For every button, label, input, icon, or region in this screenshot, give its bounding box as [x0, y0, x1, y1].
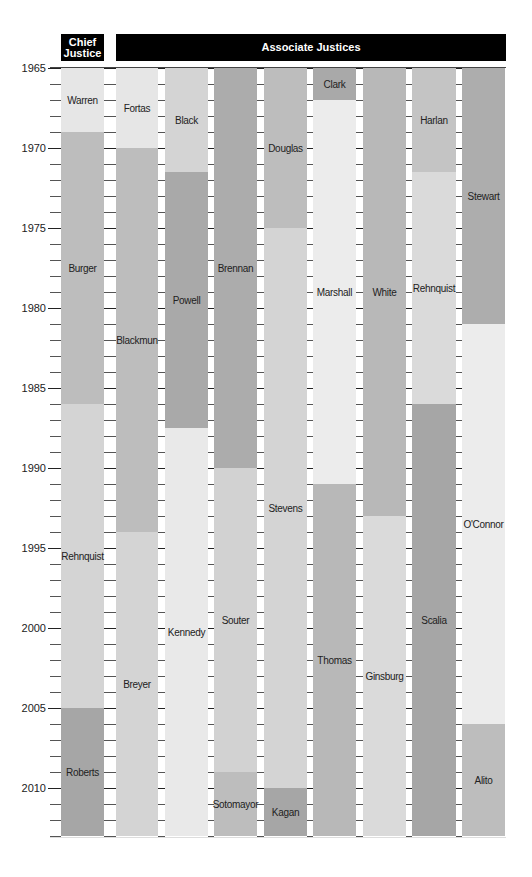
- year-tick: [208, 148, 214, 149]
- justice-name-label: White: [372, 287, 396, 298]
- year-tick: [257, 548, 264, 549]
- year-tick: [356, 436, 363, 437]
- year-tick: [158, 516, 165, 517]
- year-tick: [257, 388, 264, 389]
- justice-name-label: Alito: [475, 775, 493, 786]
- year-tick: [158, 148, 165, 149]
- year-tick: [456, 756, 462, 757]
- year-tick: [257, 420, 264, 421]
- year-tick: [257, 436, 264, 437]
- year-tick: [257, 484, 264, 485]
- justice-tenure-bar: Clark: [313, 68, 356, 100]
- year-tick: [356, 308, 363, 309]
- year-tick: [208, 356, 214, 357]
- year-tick: [257, 580, 264, 581]
- year-tick: [48, 708, 61, 709]
- year-tick: [257, 372, 264, 373]
- associate-seat-column: HarlanRehnquistScalia: [412, 68, 456, 837]
- year-tick: [208, 804, 214, 805]
- justice-tenure-bar: Marshall: [313, 100, 356, 484]
- justice-name-label: Kennedy: [168, 627, 205, 638]
- year-tick: [208, 212, 214, 213]
- year-tick: [257, 708, 264, 709]
- year-tick: [208, 404, 214, 405]
- year-tick: [257, 692, 264, 693]
- year-tick: [208, 468, 214, 469]
- year-tick: [307, 84, 313, 85]
- year-tick: [104, 324, 116, 325]
- year-tick: [307, 756, 313, 757]
- year-tick: [208, 420, 214, 421]
- year-tick: [208, 628, 214, 629]
- year-tick: [406, 692, 412, 693]
- year-tick: [307, 116, 313, 117]
- justice-name-label: Warren: [67, 95, 98, 106]
- year-tick: [456, 148, 462, 149]
- year-tick: [456, 484, 462, 485]
- year-tick: [158, 692, 165, 693]
- year-tick: [104, 820, 116, 821]
- associate-justices-header-label: Associate Justices: [261, 42, 360, 53]
- year-tick: [406, 100, 412, 101]
- year-tick: [208, 436, 214, 437]
- year-tick: [307, 628, 313, 629]
- year-tick: [158, 68, 165, 69]
- year-tick: [50, 484, 61, 485]
- y-axis-label: 1970: [0, 142, 46, 154]
- year-tick: [104, 196, 116, 197]
- year-tick: [356, 708, 363, 709]
- year-tick: [356, 404, 363, 405]
- year-tick: [307, 724, 313, 725]
- year-tick: [104, 532, 116, 533]
- year-tick: [406, 628, 412, 629]
- year-tick: [456, 452, 462, 453]
- year-tick: [307, 708, 313, 709]
- year-tick: [158, 612, 165, 613]
- year-tick: [456, 420, 462, 421]
- justice-name-label: Clark: [324, 79, 346, 90]
- year-tick: [456, 260, 462, 261]
- year-tick: [406, 404, 412, 405]
- justice-name-label: Ginsburg: [365, 671, 403, 682]
- year-tick: [406, 452, 412, 453]
- year-tick: [50, 820, 61, 821]
- justice-name-label: Rehnquist: [61, 551, 103, 562]
- year-tick: [456, 548, 462, 549]
- year-tick: [406, 244, 412, 245]
- year-tick: [456, 212, 462, 213]
- year-tick: [50, 772, 61, 773]
- y-axis-label: 1990: [0, 462, 46, 474]
- year-tick: [356, 772, 363, 773]
- year-tick: [307, 372, 313, 373]
- justice-tenure-bar: Warren: [61, 68, 104, 132]
- year-tick: [104, 276, 116, 277]
- year-tick: [307, 788, 313, 789]
- justice-name-label: Harlan: [420, 115, 448, 126]
- year-tick: [158, 596, 165, 597]
- year-tick: [257, 324, 264, 325]
- justice-name-label: Roberts: [66, 767, 99, 778]
- year-tick: [257, 724, 264, 725]
- year-tick: [406, 420, 412, 421]
- justice-name-label: Rehnquist: [413, 283, 455, 294]
- justice-name-label: Stevens: [268, 503, 302, 514]
- year-tick: [50, 212, 61, 213]
- year-tick: [208, 612, 214, 613]
- year-tick: [307, 452, 313, 453]
- year-tick: [158, 628, 165, 629]
- year-tick: [158, 116, 165, 117]
- year-tick: [307, 676, 313, 677]
- year-tick: [158, 484, 165, 485]
- year-tick: [456, 644, 462, 645]
- year-tick: [406, 804, 412, 805]
- year-tick: [104, 804, 116, 805]
- year-tick: [307, 68, 313, 69]
- year-tick: [356, 164, 363, 165]
- year-tick: [104, 628, 116, 629]
- year-tick: [406, 532, 412, 533]
- justice-name-label: Douglas: [268, 143, 303, 154]
- year-tick: [104, 452, 116, 453]
- year-tick: [50, 804, 61, 805]
- year-tick: [50, 532, 61, 533]
- year-tick: [50, 644, 61, 645]
